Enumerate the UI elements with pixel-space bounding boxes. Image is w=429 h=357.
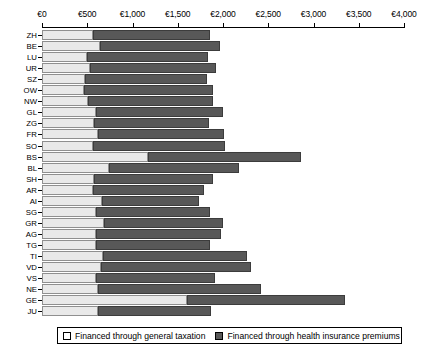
legend-label-health-insurance-premiums: Financed through health insurance premiu… [227, 331, 399, 341]
bar-segment [42, 141, 93, 151]
bar-segment [42, 96, 88, 106]
stacked-bar-chart: €0€500€1,000€1,500€2,000€2,500€3,000€3,5… [0, 0, 429, 357]
y-category-label-ur: UR [26, 64, 37, 73]
bar-segment [42, 163, 109, 173]
bar-segment [42, 273, 96, 283]
y-tick-mark [38, 157, 42, 158]
bar-segment [101, 262, 250, 272]
y-tick-mark [38, 57, 42, 58]
bar-segment [109, 163, 239, 173]
x-tick-label-0: €0 [37, 8, 46, 20]
y-category-label-bl: BL [27, 164, 37, 173]
bar-segment [94, 118, 209, 128]
bar-segment [93, 185, 203, 195]
y-tick-mark [38, 101, 42, 102]
y-tick-mark [38, 245, 42, 246]
legend-swatch-light-icon [63, 332, 71, 340]
x-tick-mark-2500 [268, 23, 269, 28]
bar-segment [42, 207, 96, 217]
y-tick-mark [38, 35, 42, 36]
bar-segment [42, 218, 104, 228]
x-tick-mark-1500 [178, 23, 179, 28]
bar-segment [42, 251, 103, 261]
bar-segment [42, 196, 102, 206]
y-category-label-be: BE [27, 42, 37, 51]
y-tick-mark [38, 300, 42, 301]
y-category-label-zg: ZG [26, 119, 37, 128]
bar-segment [102, 196, 199, 206]
x-tick-label-500: €500 [78, 8, 97, 20]
bar-segment [96, 229, 221, 239]
bar-segment [42, 41, 100, 51]
y-tick-mark [38, 212, 42, 213]
y-tick-mark [38, 278, 42, 279]
legend-swatch-dark-icon [215, 332, 223, 340]
bar-segment [96, 273, 215, 283]
y-category-label-lu: LU [27, 53, 37, 62]
bar-segment [84, 85, 213, 95]
y-category-label-ti: TI [30, 252, 37, 261]
y-tick-mark [38, 267, 42, 268]
y-tick-mark [38, 168, 42, 169]
bar-segment [187, 295, 345, 305]
bar-segment [42, 129, 98, 139]
y-tick-mark [38, 46, 42, 47]
bar-segment [87, 52, 208, 62]
bar-segment [42, 306, 98, 316]
y-tick-mark [38, 256, 42, 257]
y-category-label-ge: GE [26, 296, 37, 305]
x-tick-mark-4000 [404, 23, 405, 28]
y-category-label-ar: AR [26, 186, 37, 195]
legend-entry-general-taxation: Financed through general taxation [63, 331, 205, 341]
x-tick-label-3500: €3,500 [346, 8, 371, 20]
y-tick-mark [38, 201, 42, 202]
x-tick-label-4000: €4,000 [391, 8, 416, 20]
bar-segment [98, 306, 211, 316]
bar-segment [42, 85, 84, 95]
x-tick-mark-0 [42, 23, 43, 28]
bar-segment [90, 63, 216, 73]
x-axis-tick-labels: €0€500€1,000€1,500€2,000€2,500€3,000€3,5… [0, 8, 429, 22]
y-tick-mark [38, 123, 42, 124]
bar-segment [88, 96, 214, 106]
x-tick-label-1500: €1,500 [165, 8, 190, 20]
y-tick-mark [38, 146, 42, 147]
y-category-label-tg: TG [26, 241, 37, 250]
bar-segment [42, 174, 94, 184]
x-tick-mark-3000 [314, 23, 315, 28]
bar-segment [85, 74, 208, 84]
bar-segment [42, 240, 96, 250]
bar-segment [42, 30, 93, 40]
bar-segment [93, 30, 210, 40]
y-tick-mark [38, 190, 42, 191]
y-category-label-ag: AG [26, 230, 37, 239]
x-tick-label-1000: €1,000 [120, 8, 145, 20]
y-category-label-gr: GR [25, 219, 37, 228]
y-category-label-vs: VS [27, 274, 37, 283]
bar-segment [42, 63, 90, 73]
bar-segment [96, 207, 210, 217]
bar-segment [42, 107, 96, 117]
legend-entry-health-insurance-premiums: Financed through health insurance premiu… [215, 331, 399, 341]
legend-label-general-taxation: Financed through general taxation [75, 331, 205, 341]
y-category-label-so: SO [26, 142, 37, 151]
bar-segment [93, 141, 225, 151]
bar-segment [98, 284, 261, 294]
bar-segment [42, 295, 187, 305]
bar-segment [42, 52, 87, 62]
y-category-label-sh: SH [26, 175, 37, 184]
x-tick-label-3000: €3,000 [301, 8, 326, 20]
x-tick-label-2500: €2,500 [256, 8, 281, 20]
bar-segment [42, 118, 94, 128]
bar-segment [148, 152, 301, 162]
y-category-label-ai: AI [30, 197, 37, 206]
bar-segment [94, 174, 214, 184]
y-tick-mark [38, 234, 42, 235]
y-tick-mark [38, 289, 42, 290]
bar-segment [42, 284, 98, 294]
x-tick-mark-2000 [223, 23, 224, 28]
bar-segment [103, 251, 246, 261]
y-tick-mark [38, 311, 42, 312]
y-category-label-gl: GL [27, 108, 37, 117]
y-tick-mark [38, 179, 42, 180]
